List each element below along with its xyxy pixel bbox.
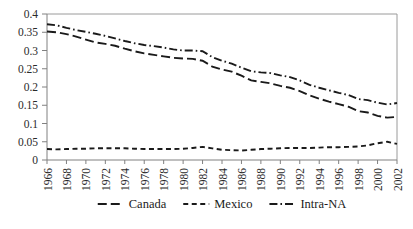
x-axis-ticks: 1966196819701972197419761978198019821984…	[42, 160, 404, 191]
chart-legend: CanadaMexicoIntra-NA	[98, 197, 347, 211]
x-tick-label: 2002	[392, 168, 404, 191]
x-tick-label: 1968	[61, 168, 73, 191]
plot-area-background	[47, 14, 397, 160]
y-tick-label: 0.35	[18, 26, 38, 38]
y-tick-label: 0.05	[18, 136, 38, 148]
y-axis-tick-labels: 0 0.05 0.1 0.15 0.2 0.25 0.3 0.35 0.4	[18, 8, 38, 166]
legend-label-intra-na: Intra-NA	[300, 197, 346, 211]
line-chart: 0 0.05 0.1 0.15 0.2 0.25 0.3 0.35 0.4 19…	[0, 0, 413, 229]
x-tick-label: 1994	[314, 168, 326, 191]
x-tick-label: 1978	[158, 168, 170, 191]
y-tick-label: 0.15	[18, 99, 38, 111]
y-tick-label: 0.4	[24, 8, 39, 20]
x-tick-label: 1976	[139, 168, 151, 191]
x-tick-label: 1972	[100, 168, 112, 191]
x-tick-label: 1974	[119, 168, 131, 191]
x-tick-label: 1990	[275, 168, 287, 191]
x-tick-label: 1966	[42, 168, 54, 191]
x-tick-label: 1984	[217, 168, 229, 191]
x-tick-label: 1970	[80, 168, 92, 191]
y-tick-label: 0.25	[18, 63, 38, 75]
y-tick-label: 0.1	[24, 118, 39, 130]
legend-label-mexico: Mexico	[214, 197, 252, 211]
y-axis-ticks	[42, 14, 47, 160]
y-tick-label: 0	[32, 154, 38, 166]
chart-canvas: 0 0.05 0.1 0.15 0.2 0.25 0.3 0.35 0.4 19…	[0, 0, 413, 229]
x-tick-label: 1980	[178, 168, 190, 191]
x-tick-label: 2000	[372, 168, 384, 191]
x-tick-label: 1982	[197, 168, 209, 191]
x-tick-label: 1996	[333, 168, 345, 191]
x-tick-label: 1988	[255, 168, 267, 191]
x-tick-label: 1986	[236, 168, 248, 191]
y-tick-label: 0.3	[24, 45, 39, 57]
y-tick-label: 0.2	[24, 81, 39, 93]
legend-label-canada: Canada	[129, 197, 167, 211]
x-tick-label: 1998	[353, 168, 365, 191]
x-tick-label: 1992	[294, 168, 306, 191]
